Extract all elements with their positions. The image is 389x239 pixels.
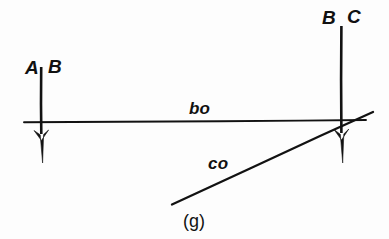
label-right-vertex-c: C	[347, 7, 361, 26]
diagram-canvas	[0, 0, 389, 239]
label-horizontal-ray-bo: bo	[189, 100, 210, 117]
label-left-vertex-a: A	[25, 58, 39, 77]
left-arrow-head-icon	[34, 130, 49, 163]
label-diagonal-ray-co: co	[208, 155, 228, 172]
figure-container: A B B C bo co (g)	[0, 0, 389, 239]
figure-caption: (g)	[183, 212, 205, 230]
label-left-vertex-b: B	[48, 57, 62, 76]
right-arrow-head-icon	[334, 129, 349, 163]
horizontal-ray-line	[24, 120, 366, 122]
label-right-vertex-b: B	[322, 8, 336, 27]
